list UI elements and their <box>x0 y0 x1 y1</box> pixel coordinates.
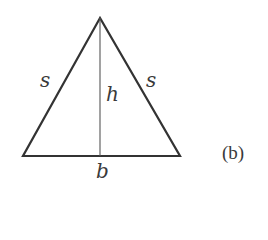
left-side-label: s <box>40 70 50 90</box>
right-side-label: s <box>146 70 156 90</box>
figure-caption: (b) <box>222 143 244 162</box>
base-label: b <box>96 161 109 181</box>
height-label: h <box>106 84 119 104</box>
